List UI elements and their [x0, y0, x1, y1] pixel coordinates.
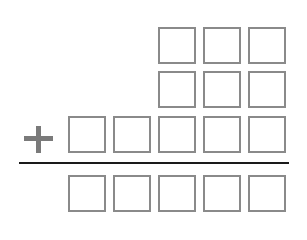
digit-box-r3-c3[interactable] [158, 116, 196, 153]
digit-box-r2-c5[interactable] [248, 71, 286, 108]
sum-box-c3[interactable] [158, 175, 196, 212]
sum-box-c1[interactable] [68, 175, 106, 212]
digit-box-r2-c4[interactable] [203, 71, 241, 108]
digit-box-r1-c5[interactable] [248, 27, 286, 64]
digit-box-r1-c4[interactable] [203, 27, 241, 64]
digit-box-r3-c5[interactable] [248, 116, 286, 153]
digit-box-r1-c3[interactable] [158, 27, 196, 64]
sum-divider-line [19, 162, 289, 164]
sum-box-c4[interactable] [203, 175, 241, 212]
digit-box-r2-c3[interactable] [158, 71, 196, 108]
sum-box-c5[interactable] [248, 175, 286, 212]
digit-box-r3-c2[interactable] [113, 116, 151, 153]
sum-box-c2[interactable] [113, 175, 151, 212]
digit-box-r3-c1[interactable] [68, 116, 106, 153]
digit-box-r3-c4[interactable] [203, 116, 241, 153]
plus-vertical-bar [36, 126, 41, 153]
